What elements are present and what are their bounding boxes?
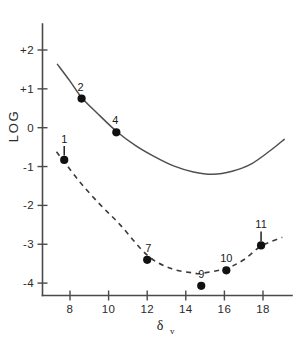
data-point-label: 2 xyxy=(78,81,84,93)
data-point-marker xyxy=(60,156,68,164)
figure-background xyxy=(0,0,300,350)
data-point-label: 10 xyxy=(220,252,232,264)
y-axis-title: LOG xyxy=(6,110,21,142)
data-point-label: 11 xyxy=(255,218,266,230)
y-tick-label: -2 xyxy=(23,199,34,211)
data-point-label: 4 xyxy=(112,114,118,126)
data-point-label: 7 xyxy=(145,242,151,254)
y-tick-label: +1 xyxy=(20,83,34,95)
y-tick-label: 0 xyxy=(27,122,34,134)
data-point-marker xyxy=(257,241,265,249)
x-tick-label: 8 xyxy=(67,303,74,315)
x-tick-label: 16 xyxy=(218,303,232,315)
data-point-marker xyxy=(143,256,151,264)
x-tick-label: 18 xyxy=(256,303,270,315)
data-point-marker xyxy=(112,128,120,136)
x-axis-title-base: δ xyxy=(157,318,164,333)
y-tick-label: -4 xyxy=(23,277,34,289)
y-tick-label: -1 xyxy=(23,161,34,173)
x-tick-label: 14 xyxy=(179,303,193,315)
data-point-label: 9 xyxy=(198,268,204,280)
y-tick-label: -3 xyxy=(23,238,34,250)
data-point-marker xyxy=(197,282,205,290)
data-point-marker xyxy=(222,266,230,274)
plot-canvas: +2+10-1-2-3-4 81012141618 124791011 LOG … xyxy=(0,0,300,350)
data-point-label: 1 xyxy=(61,133,67,145)
x-tick-label: 10 xyxy=(102,303,116,315)
x-axis-title-subscript: v xyxy=(170,326,175,336)
data-point-marker xyxy=(77,94,85,102)
y-tick-label: +2 xyxy=(20,44,34,56)
x-tick-label: 12 xyxy=(140,303,154,315)
chart-figure: +2+10-1-2-3-4 81012141618 124791011 LOG … xyxy=(0,0,300,350)
